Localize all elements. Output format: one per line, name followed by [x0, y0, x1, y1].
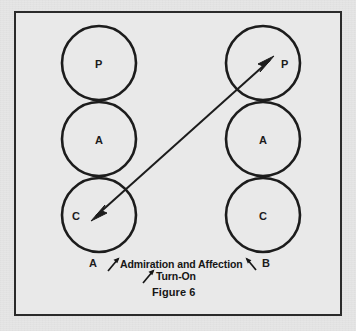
label-right-adult: A — [259, 135, 267, 146]
label-left-adult: A — [95, 135, 103, 146]
caption-arrow-turnon-up — [143, 270, 155, 284]
label-person-b: B — [262, 258, 270, 269]
label-person-a: A — [89, 258, 97, 269]
caption-turn-on: Turn-On — [156, 271, 196, 282]
caption-admiration-and-affection: Admiration and Affection — [120, 259, 243, 270]
figure-number: Figure 6 — [152, 287, 196, 298]
label-right-child: C — [259, 211, 267, 222]
label-right-parent: P — [281, 59, 289, 70]
label-left-child: C — [72, 211, 80, 222]
figure-container: P A C P A C A B Admiration and Affection… — [0, 0, 356, 331]
label-left-parent: P — [95, 59, 103, 70]
transaction-arrow — [91, 56, 274, 221]
caption-arrow-left-up — [108, 258, 120, 272]
caption-arrow-right-down — [246, 258, 257, 271]
